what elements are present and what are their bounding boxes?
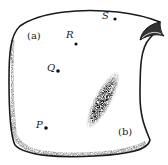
region-a-label: (a) [27, 31, 41, 41]
point-R-label: R [66, 30, 74, 40]
region-outline-graphic [0, 0, 168, 165]
point-Q-label: Q [47, 63, 55, 73]
point-R-dot [74, 42, 77, 45]
dense-region-b [80, 68, 126, 133]
region-b-label: (b) [118, 127, 132, 137]
point-S-label: S [102, 11, 109, 21]
point-P-label: P [36, 120, 43, 130]
edge-shading [11, 40, 146, 155]
point-S-dot [113, 17, 116, 20]
curled-flap [140, 22, 164, 40]
diagram-canvas: (a) (b) P Q R S [0, 0, 168, 165]
point-Q-dot [56, 69, 60, 73]
point-P-dot [44, 126, 48, 130]
